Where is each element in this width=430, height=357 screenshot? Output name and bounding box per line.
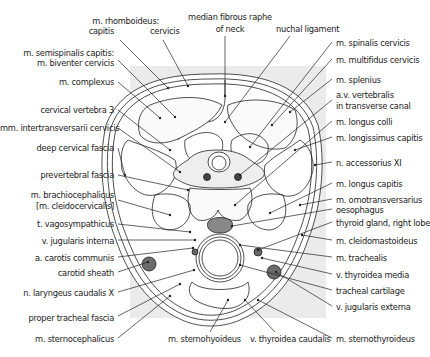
label-longus-capitis: m. longus capitis xyxy=(336,179,402,189)
label-tracheal-fascia: proper tracheal fascia xyxy=(0,313,114,323)
vertebral-artery-left xyxy=(204,174,211,181)
label-semispinalis-1: m. semispinalis capitis: xyxy=(0,48,114,58)
label-jugularis-interna: v. jugularis interna xyxy=(0,236,114,246)
leader-dot-laryngeus xyxy=(193,269,195,271)
leader-dot-cleidomastoideus xyxy=(301,234,303,236)
leader-dot-rhomboideus-capitis xyxy=(167,87,169,89)
label-oesophagus: oesophagus xyxy=(336,205,384,215)
leader-dot-trachealis xyxy=(239,244,241,246)
leader-dot-complexus xyxy=(159,117,161,119)
label-brachiocephalicus-1: m. brachiocephalicus xyxy=(0,190,114,200)
leader-dot-tracheal-cartilage xyxy=(239,264,241,266)
leader-dot-longus-capitis xyxy=(269,212,271,214)
label-sternocephalicus: m. sternocephalicus xyxy=(0,334,114,344)
label-carotid-sheath: carotid sheath xyxy=(0,268,114,278)
leader-dot-nuchal-ligament xyxy=(224,121,226,123)
label-complexus: m. complexus xyxy=(0,77,114,87)
label-thyroidea-caudalis: v. thyroidea caudalis xyxy=(250,334,331,344)
leader-dot-semispinalis xyxy=(174,116,176,118)
leader-dot-thyroidea-media xyxy=(261,257,263,259)
leader-dot-carotis-communis xyxy=(192,247,194,249)
label-longus-colli: m. longus colli xyxy=(336,117,392,127)
leader-dot-longissimus xyxy=(294,149,296,151)
label-thyroid: thyroid gland, right lobe xyxy=(336,218,430,228)
leader-dot-sternocephalicus xyxy=(169,295,171,297)
label-vertebralis-2: in transverse canal xyxy=(336,101,411,111)
leader-dot-jugularis-interna xyxy=(194,239,196,241)
label-rhomboideus: m. rhomboideus: xyxy=(84,16,159,26)
leader-dot-tracheal-fascia xyxy=(179,283,181,285)
leader-dot-carotid-sheath xyxy=(147,261,149,263)
label-median-raphe-2: of neck xyxy=(185,24,275,34)
label-accessorius: n. accessorius XI xyxy=(336,158,401,168)
label-intertransversarii: mm. intertransversarii cervicis xyxy=(0,123,114,133)
label-cervical-vertebra: cervical vertebra 3 xyxy=(0,105,114,115)
leader-dot-prevertebral-fascia xyxy=(187,189,189,191)
leader-dot-sternothyroideus xyxy=(257,299,259,301)
label-carotis-communis: a. carotis communis xyxy=(0,253,114,263)
leader-dot-brachiocephalicus xyxy=(169,214,171,216)
label-longissimus: m. longissimus capitis xyxy=(336,133,422,143)
leader-dot-deep-cervical-fascia xyxy=(124,174,126,176)
leader-dot-vagosympathicus xyxy=(189,231,191,233)
label-vagosympathicus: t. vagosympathicus xyxy=(0,219,114,229)
label-sternothyroideus: m. sternothyroideus xyxy=(336,334,415,344)
label-splenius: m. splenius xyxy=(336,75,381,85)
leader-dot-rhomboideus-cervicis xyxy=(187,85,189,87)
label-trachealis: m. trachealis xyxy=(336,253,387,263)
leader-dot-vertebralis xyxy=(239,174,241,176)
label-spinalis: m. spinalis cervicis xyxy=(336,38,410,48)
label-rhomboideus-capitis: capitis xyxy=(84,26,114,36)
jugularis-externa-right xyxy=(267,265,281,279)
thyroid-left xyxy=(192,249,198,255)
carotid-sheath-left xyxy=(142,257,156,271)
leader-dot-median-raphe xyxy=(224,95,226,97)
label-laryngeus: n. laryngeus caudalis X xyxy=(0,288,114,298)
leader-dot-cervical-vertebra xyxy=(169,149,171,151)
label-rhomboideus-cervicis: cervicis xyxy=(150,26,179,36)
label-multifidus: m. multifidus cervicis xyxy=(336,55,419,65)
label-sternohyoideus: m. sternohyoideus xyxy=(168,334,241,344)
leader-dot-jugularis-externa xyxy=(275,271,277,273)
leader-dot-spinalis xyxy=(249,146,251,148)
oesophagus-shape xyxy=(208,218,233,234)
label-nuchal-ligament: nuchal ligament xyxy=(276,24,339,34)
label-brachiocephalicus-2: [m. cleidocervicalis] xyxy=(0,201,114,211)
leader-dot-thyroid xyxy=(257,249,259,251)
label-median-raphe-1: median fibrous raphe xyxy=(185,12,275,22)
leader-dot-omotransversarius xyxy=(299,204,301,206)
label-semispinalis-2: m. biventer cervicis xyxy=(0,58,114,68)
spinal-cord xyxy=(208,152,230,172)
label-jugularis-externa: v. jugularis externa xyxy=(336,302,411,312)
leader-dot-accessorius xyxy=(314,164,316,166)
label-cleidomastoideus: m. cleidomastoideus xyxy=(336,236,417,246)
leader-dot-longus-colli xyxy=(234,204,236,206)
label-tracheal-cartilage: tracheal cartilage xyxy=(336,286,405,296)
label-omotransversarius: m. omotransversarius xyxy=(336,195,422,205)
trachea-outer xyxy=(196,234,244,282)
label-deep-cervical-fascia: deep cervical fascia xyxy=(0,143,114,153)
label-thyroidea-media: v. thyroidea media xyxy=(336,270,409,280)
leader-dot-sternohyoideus xyxy=(227,299,229,301)
label-vertebralis-1: a.v. vertebralis xyxy=(336,90,394,100)
leader-dot-thyroidea-caudalis xyxy=(244,299,246,301)
leader-dot-multifidus xyxy=(271,124,273,126)
leader-dot-intertransversarii xyxy=(179,171,181,173)
label-prevertebral-fascia: prevertebral fascia xyxy=(0,170,114,180)
leader-dot-splenius xyxy=(289,111,291,113)
leader-dot-oesophagus xyxy=(231,225,233,227)
